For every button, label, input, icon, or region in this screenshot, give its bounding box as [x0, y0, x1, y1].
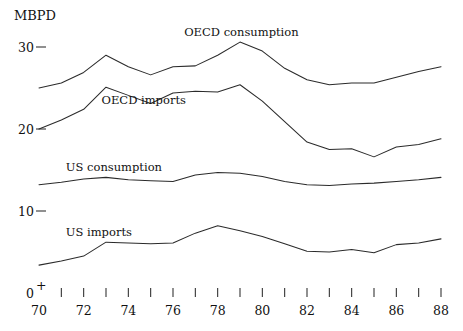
series-label-us-imports: US imports — [66, 225, 132, 239]
y-tick-label-20: 20 — [18, 122, 34, 137]
x-axis: 70727476788082848688 — [31, 288, 449, 318]
x-tick-label-72: 72 — [76, 303, 92, 318]
x-tick-label-82: 82 — [299, 303, 315, 318]
y-tick-label-30: 30 — [18, 40, 34, 55]
series-labels: OECD consumptionOECD importsUS consumpti… — [66, 25, 299, 239]
series-line-oecd-consumption — [39, 42, 441, 88]
x-tick-label-78: 78 — [210, 303, 226, 318]
x-tick-label-76: 76 — [165, 303, 181, 318]
axis-origin-marker: + — [36, 278, 46, 293]
line-chart-oil-supply: MBPD 0+102030 70727476788082848688 OECD … — [0, 0, 463, 331]
x-tick-label-86: 86 — [388, 303, 404, 318]
x-tick-label-80: 80 — [254, 303, 270, 318]
series-line-us-consumption — [39, 172, 441, 185]
y-axis: 0+102030 — [18, 40, 46, 301]
series-label-oecd-imports: OECD imports — [102, 93, 186, 107]
series-label-oecd-consumption: OECD consumption — [184, 25, 299, 39]
chart-canvas: MBPD 0+102030 70727476788082848688 OECD … — [0, 0, 463, 331]
series-line-oecd-imports — [39, 85, 441, 157]
y-tick-label-10: 10 — [18, 204, 34, 219]
x-tick-label-74: 74 — [120, 303, 136, 318]
y-tick-label-0: 0 — [26, 286, 34, 301]
series-label-us-consumption: US consumption — [66, 160, 163, 174]
x-tick-label-70: 70 — [31, 303, 47, 318]
x-tick-label-88: 88 — [433, 303, 449, 318]
y-axis-unit-label: MBPD — [14, 8, 56, 23]
x-tick-label-84: 84 — [344, 303, 360, 318]
